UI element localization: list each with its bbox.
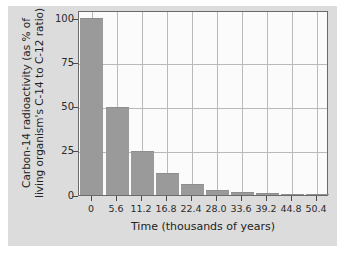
bar-22.4[interactable] [181,184,204,195]
y-tick-label-100: 100 [52,14,74,24]
x-tick-mark-39.2 [266,196,267,201]
bar-39.2[interactable] [256,193,279,195]
bar-16.8[interactable] [156,173,179,195]
bar-50.4[interactable] [306,194,329,195]
bar-44.8[interactable] [281,194,304,195]
x-tick-mark-5.6 [116,196,117,201]
x-tick-mark-33.6 [241,196,242,201]
x-tick-mark-16.8 [166,196,167,201]
x-tick-label-50.4: 50.4 [301,204,331,214]
y-tick-label-25: 25 [52,146,74,156]
y-tick-label-75: 75 [52,58,74,68]
bars [79,12,327,195]
y-axis-title: Carbon-14 radioactivity (as % of living … [20,8,46,198]
y-tick-label-50: 50 [52,102,74,112]
figure-container: Carbon-14 radioactivity (as % of living … [0,0,345,256]
x-tick-mark-28.0 [216,196,217,201]
y-tick-label-0: 0 [52,191,74,201]
x-tick-mark-50.4 [316,196,317,201]
bar-0[interactable] [80,18,103,195]
x-tick-mark-0 [91,196,92,201]
x-tick-mark-22.4 [191,196,192,201]
y-axis-title-line-1: Carbon-14 radioactivity (as % of [20,8,33,198]
x-tick-mark-11.2 [141,196,142,201]
bar-33.6[interactable] [231,192,254,195]
x-tick-mark-44.8 [291,196,292,201]
plot-area [78,11,328,196]
bar-5.6[interactable] [106,107,129,196]
x-axis-title: Time (thousands of years) [78,220,328,233]
y-axis-title-line-2: living organism's C-14 to C-12 ratio) [33,8,46,198]
bar-28.0[interactable] [206,190,229,196]
bar-11.2[interactable] [131,151,154,195]
